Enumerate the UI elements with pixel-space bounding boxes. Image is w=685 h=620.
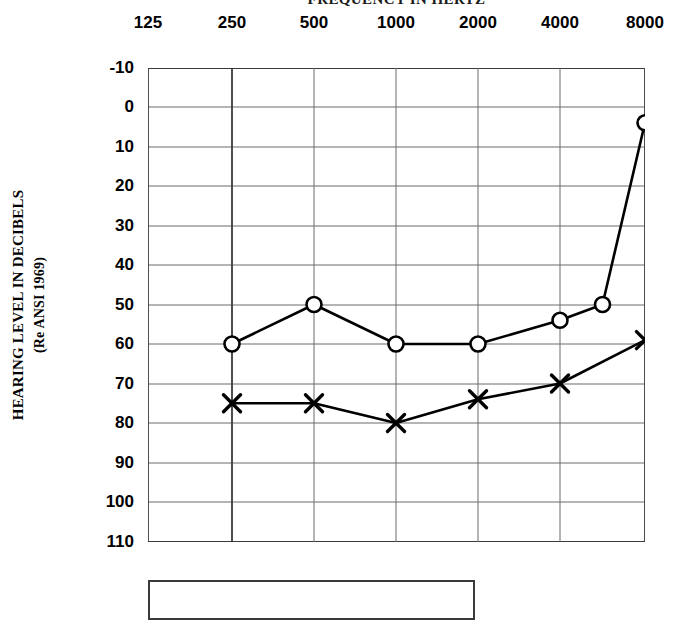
x-tick-label-500: 500 [282, 13, 346, 33]
plot-area [148, 68, 645, 542]
y-tick-label-10: 10 [115, 136, 134, 158]
y-tick-label-50: 50 [115, 294, 134, 316]
marker-circle-500hz [307, 297, 322, 312]
y-tick-label-20: 20 [115, 175, 134, 197]
y-axis-title-line2: (Re ANSI 1969) [29, 190, 50, 420]
marker-circle-4000hz [553, 313, 568, 328]
x-tick-label-2000: 2000 [446, 13, 510, 33]
y-axis-title-line1: HEARING LEVEL IN DECIBELS [10, 190, 26, 420]
y-tick-label-110: 110 [107, 531, 134, 553]
y-tick-label-neg10: -10 [109, 57, 134, 79]
y-tick-label-60: 60 [115, 333, 134, 355]
chart-title: FREQUENCY IN HERTZ [148, 0, 645, 8]
y-axis-tick-labels: -100102030405060708090100110 [56, 0, 142, 592]
y-tick-label-90: 90 [115, 452, 134, 474]
x-tick-label-8000: 8000 [613, 13, 677, 33]
marker-circle-2000hz [471, 337, 486, 352]
legend-box [148, 580, 475, 620]
y-tick-label-0: 0 [125, 96, 134, 118]
x-tick-label-250: 250 [200, 13, 264, 33]
y-tick-label-30: 30 [115, 215, 134, 237]
y-tick-label-80: 80 [115, 412, 134, 434]
y-tick-label-70: 70 [115, 373, 134, 395]
x-tick-label-1000: 1000 [364, 13, 428, 33]
marker-circle-250hz [225, 337, 240, 352]
marker-circle-8000hz [638, 115, 646, 130]
series-line-left-ear-air-conduction [232, 340, 645, 423]
x-tick-label-4000: 4000 [528, 13, 592, 33]
marker-circle-6000hz [595, 297, 610, 312]
marker-circle-1000hz [389, 337, 404, 352]
y-axis-title: HEARING LEVEL IN DECIBELS (Re ANSI 1969) [6, 68, 52, 542]
audiogram-plot-svg [148, 68, 645, 542]
y-tick-label-40: 40 [115, 254, 134, 276]
series-line-right-ear-air-conduction [232, 123, 645, 344]
y-tick-label-100: 100 [106, 491, 134, 513]
